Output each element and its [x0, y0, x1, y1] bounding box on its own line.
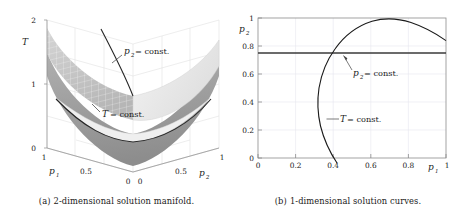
annotation-t-symbol: T: [340, 114, 347, 124]
tick-x-1: 1: [445, 161, 450, 170]
tick-y-0.6: 0.6: [242, 70, 254, 79]
tick-p2-0.5: 0.5: [175, 167, 187, 176]
leader-p2-const: [112, 55, 122, 63]
figure-container: p 2 = const. T = const. 2 1 0 T 1: [0, 0, 463, 210]
annotation-p2-text: = const.: [364, 68, 398, 78]
tick-y-0.4: 0.4: [242, 98, 254, 107]
annotation-p2-const: p 2 = const.: [124, 46, 169, 58]
annotation-t-symbol: T: [102, 109, 109, 119]
axis-label-p2: p 2: [239, 24, 250, 36]
surface-3d-plot: p 2 = const. T = const. 2 1 0 T 1: [0, 0, 233, 185]
tick-p2-1: 1: [220, 153, 225, 162]
plot-background: [258, 18, 446, 158]
axis-T: 2 1 0 T: [22, 16, 47, 153]
axis-label-p2-subscript: 2: [245, 30, 250, 36]
annotation-t-text: = const.: [347, 114, 381, 124]
annotation-p2-symbol: p: [124, 46, 130, 56]
annotation-p2-symbol: p: [353, 68, 359, 78]
x-tick-labels: 0 0.2 0.4 0.6 0.8 1: [256, 161, 450, 170]
caption-b-label: (b): [275, 196, 287, 206]
curve-p2-const-3d: [101, 29, 133, 96]
tick-x-0.6: 0.6: [365, 161, 377, 170]
axis-label-p1: p: [49, 166, 55, 176]
tick-x-0: 0: [256, 161, 261, 170]
axis-label-p1-subscript: 1: [435, 168, 438, 174]
tick-y-1: 1: [249, 14, 254, 23]
axis-label-T: T: [22, 37, 29, 47]
line-2d-plot: p 2 = const. T = const. 0 0.2 0.4 0.6 0.…: [233, 0, 463, 185]
caption-panel-b: (b)1-dimensional solution curves.: [233, 196, 463, 206]
tick-x-0.8: 0.8: [403, 161, 415, 170]
tick-p1-0.5: 0.5: [80, 167, 92, 176]
tick-p2-0: 0: [138, 177, 143, 185]
axis-label-p2-symbol: p: [239, 24, 245, 34]
axis-label-p1-symbol: p: [428, 162, 434, 172]
caption-a-label: (a): [39, 196, 51, 206]
caption-b-text: 1-dimensional solution curves.: [290, 196, 421, 206]
tick-p1-1: 1: [42, 153, 47, 162]
panel-a-3d-manifold: p 2 = const. T = const. 2 1 0 T 1: [0, 0, 233, 210]
tick-x-0.4: 0.4: [327, 161, 339, 170]
annotation-t-text: = const.: [110, 109, 144, 119]
tick-y-0.8: 0.8: [242, 42, 254, 51]
tick-y-0: 0: [249, 154, 254, 163]
tick-x-0.2: 0.2: [290, 161, 302, 170]
tick-T-2: 2: [31, 16, 36, 25]
panel-b-solution-curves: p 2 = const. T = const. 0 0.2 0.4 0.6 0.…: [233, 0, 463, 210]
axis-label-p2-subscript: 2: [205, 174, 210, 180]
annotation-t-const: T = const.: [340, 114, 381, 124]
caption-panel-a: (a)2-dimensional solution manifold.: [0, 196, 233, 206]
annotation-p2-text: = const.: [135, 46, 169, 56]
tick-y-0.2: 0.2: [242, 126, 254, 135]
axis-label-p1: p 1: [428, 162, 438, 174]
axis-label-p2: p: [199, 168, 205, 178]
tick-T-1: 1: [31, 80, 36, 89]
y-tick-labels: 0 0.2 0.4 0.6 0.8 1: [242, 14, 254, 163]
surface-upper-mesh: [47, 28, 133, 120]
caption-a-text: 2-dimensional solution manifold.: [54, 196, 195, 206]
tick-T-0: 0: [31, 144, 36, 153]
tick-p1-0: 0: [126, 177, 131, 185]
axis-label-p1-subscript: 1: [56, 172, 59, 178]
